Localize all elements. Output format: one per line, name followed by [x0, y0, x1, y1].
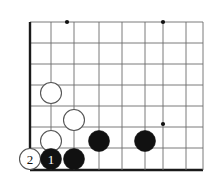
black-stone-move-1[interactable] — [41, 149, 62, 170]
star-point-lower-right-icon — [161, 122, 165, 126]
white-stone-move-2[interactable] — [20, 149, 41, 170]
star-point-upper-left-icon — [65, 20, 69, 24]
star-point-upper-right-icon — [161, 20, 165, 24]
white-stone-a[interactable] — [41, 83, 62, 104]
white-stone-b[interactable] — [64, 110, 85, 131]
black-stone-e[interactable] — [89, 131, 110, 152]
black-stone-d[interactable] — [64, 149, 85, 170]
black-stone-f[interactable] — [135, 131, 156, 152]
go-board[interactable]: 21 — [0, 0, 213, 186]
go-diagram-screen: 21 — [0, 0, 213, 186]
go-board-graphic — [0, 0, 213, 186]
